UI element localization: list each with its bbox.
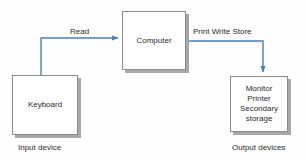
node-output-line-storage: storage [240, 114, 278, 124]
edge-label-print-write-store: Print Write Store [193, 27, 252, 36]
edge-label-read: Read [70, 27, 89, 36]
node-output-line-monitor: Monitor [240, 84, 278, 94]
node-computer-label: Computer [136, 36, 171, 46]
diagram-canvas: Keyboard Computer Monitor Printer Second… [0, 0, 306, 160]
edge-print-write-store-arrow [186, 41, 263, 72]
node-keyboard-label: Keyboard [28, 100, 62, 110]
node-output-devices[interactable]: Monitor Printer Secondary storage [230, 76, 288, 132]
caption-output-devices: Output devices [232, 143, 285, 153]
node-keyboard[interactable]: Keyboard [12, 75, 78, 135]
edge-read-arrow [41, 38, 118, 75]
node-output-line-secondary: Secondary [240, 104, 278, 114]
caption-input-device: Input device [18, 143, 61, 153]
node-computer[interactable]: Computer [122, 11, 186, 70]
node-output-line-printer: Printer [240, 94, 278, 104]
node-output-label-group: Monitor Printer Secondary storage [238, 84, 280, 124]
